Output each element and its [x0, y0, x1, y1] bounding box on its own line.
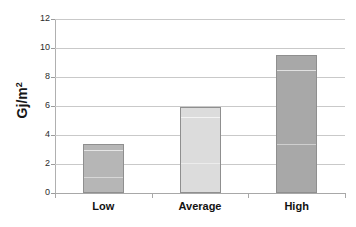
y-axis-tick-label: 8 — [24, 71, 50, 81]
x-axis-tick-mark — [55, 193, 56, 198]
plot-area — [55, 19, 345, 193]
bar-highlight-line — [84, 150, 123, 151]
y-axis-tick-label: 4 — [24, 129, 50, 139]
y-axis-tick-label: 10 — [24, 42, 50, 52]
bar-highlight-line — [181, 117, 220, 118]
y-axis-tick-label: 2 — [24, 158, 50, 168]
x-axis-tick-mark — [345, 193, 346, 198]
y-axis-tick-label: 6 — [24, 100, 50, 110]
y-axis-tick-label: 0 — [24, 187, 50, 197]
x-axis-label-average: Average — [150, 200, 250, 212]
x-axis-label-high: High — [247, 200, 347, 212]
bar-highlight-line — [277, 70, 316, 71]
gridline-12 — [55, 19, 345, 20]
x-axis-label-low: Low — [53, 200, 153, 212]
bar-chart: Gj/m2 024681012 LowAverageHigh — [0, 0, 356, 227]
x-axis-line — [55, 193, 346, 194]
bar-highlight-line — [277, 144, 316, 145]
y-axis-title-superscript: 2 — [14, 82, 24, 87]
bar-highlight-line — [181, 163, 220, 164]
bar-average[interactable] — [180, 107, 221, 193]
gridline-10 — [55, 48, 345, 49]
y-axis-tick-label: 12 — [24, 13, 50, 23]
bar-highlight-line — [84, 177, 123, 178]
bar-low[interactable] — [83, 144, 124, 193]
x-axis-tick-mark — [248, 193, 249, 198]
bar-high[interactable] — [276, 55, 317, 193]
x-axis-tick-mark — [152, 193, 153, 198]
